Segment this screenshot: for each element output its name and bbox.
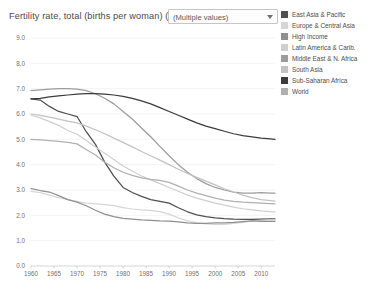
series-line[interactable] [31, 94, 275, 140]
x-axis-tick-label: 1960 [24, 270, 39, 277]
x-axis-tick-label: 2000 [208, 270, 223, 277]
legend-item-label: Europe & Central Asia [292, 22, 355, 29]
legend-color-swatch [281, 11, 288, 18]
x-axis-tick-label: 1990 [162, 270, 177, 277]
filter-dropdown-value: (Multiple values) [173, 13, 228, 22]
y-axis-tick-label: 7.0 [16, 85, 25, 92]
y-axis-tick-label: 3.0 [16, 186, 25, 193]
line-chart-svg: 0.01.02.03.04.05.06.07.08.09.01960196519… [0, 30, 372, 293]
legend-color-swatch [281, 22, 288, 29]
series-line[interactable] [31, 115, 275, 212]
chart-plot-area: 0.01.02.03.04.05.06.07.08.09.01960196519… [0, 30, 372, 293]
legend-item-label: East Asia & Pacific [292, 11, 345, 18]
x-axis-tick-label: 1965 [47, 270, 62, 277]
y-axis-tick-label: 8.0 [16, 60, 25, 67]
chevron-down-icon [267, 15, 273, 19]
y-axis-tick-label: 1.0 [16, 237, 25, 244]
x-axis-tick-label: 2005 [231, 270, 246, 277]
x-axis-tick-label: 2010 [254, 270, 269, 277]
legend-item[interactable]: East Asia & Pacific [281, 9, 372, 19]
y-axis-tick-label: 9.0 [16, 34, 25, 41]
y-axis-tick-label: 4.0 [16, 161, 25, 168]
x-axis-tick-label: 1975 [93, 270, 108, 277]
y-axis-tick-label: 0.0 [16, 262, 25, 269]
x-axis-tick-label: 1995 [185, 270, 200, 277]
series-line[interactable] [31, 114, 275, 201]
page-title: Fertility rate, total (births per woman)… [9, 11, 190, 21]
filter-dropdown[interactable]: (Multiple values) [168, 9, 278, 24]
y-axis-tick-label: 2.0 [16, 212, 25, 219]
x-axis-tick-label: 1970 [70, 270, 85, 277]
y-axis-tick-label: 6.0 [16, 110, 25, 117]
x-axis-tick-label: 1985 [139, 270, 154, 277]
x-axis-tick-label: 1980 [116, 270, 131, 277]
y-axis-tick-label: 5.0 [16, 136, 25, 143]
legend-item[interactable]: Europe & Central Asia [281, 20, 372, 30]
